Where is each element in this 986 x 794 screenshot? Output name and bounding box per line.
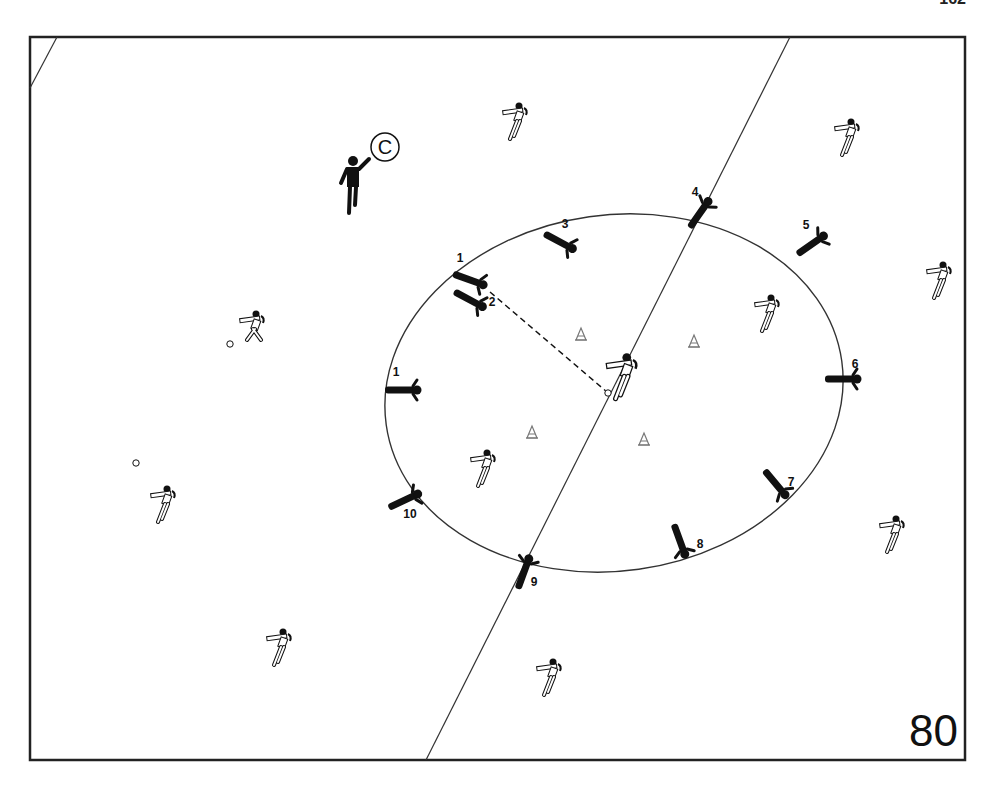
player-number: 9: [531, 575, 538, 589]
ring-player-icon: [681, 192, 718, 233]
outfield-players-group: [151, 103, 951, 696]
player-number: 2: [489, 295, 496, 309]
ball-icon: [605, 390, 611, 396]
ring-player-icon: [385, 380, 422, 400]
coach-figure-icon: [341, 156, 369, 213]
outfield-player-icon: [471, 450, 495, 487]
cone-icon: [638, 433, 650, 445]
player-number: 1: [393, 365, 400, 379]
outfield-player-icon: [503, 103, 527, 140]
balls-group: [133, 341, 611, 466]
training-diagram: 123456789110 C: [0, 0, 986, 794]
cone-icon: [575, 328, 587, 340]
ball-icon: [133, 460, 139, 466]
player-number: 4: [692, 185, 699, 199]
outfield-player-icon: [151, 486, 175, 523]
outfield-player-icon: [755, 295, 779, 332]
pitch-frame: [30, 37, 965, 760]
player-number: 6: [852, 357, 859, 371]
outfield-player-icon: [927, 262, 951, 299]
ring-player-icon: [539, 225, 581, 260]
outfield-player-icon: [537, 659, 561, 696]
player-number: 8: [697, 537, 704, 551]
player-number: 5: [803, 218, 810, 232]
outfield-player-icon: [240, 311, 264, 341]
page-number: 80: [909, 706, 958, 756]
ring-player-icon: [664, 521, 695, 562]
outfield-player-icon: [880, 516, 904, 553]
ball-icon: [227, 341, 233, 347]
outfield-player-icon: [267, 629, 291, 666]
center-circle: [361, 185, 866, 602]
pass-dashed-line: [490, 292, 607, 392]
halfway-line: [426, 37, 790, 760]
corner-line: [30, 37, 57, 88]
outfield-player-icon: [835, 119, 859, 156]
coach-label: C: [378, 136, 392, 158]
player-number: 3: [562, 217, 569, 231]
player-number: 1: [457, 251, 464, 265]
player-number: 10: [403, 507, 417, 521]
player-number: 7: [788, 475, 795, 489]
coach: C: [341, 133, 399, 213]
cone-icon: [688, 335, 700, 347]
cone-icon: [526, 426, 538, 438]
ring-player-icon: [792, 225, 833, 262]
